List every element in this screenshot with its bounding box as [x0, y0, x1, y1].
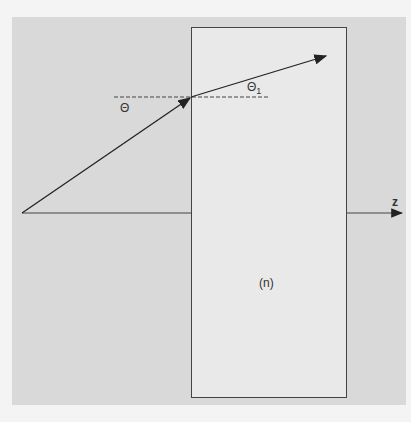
ray-diagram — [0, 0, 411, 422]
refracted-angle-label: Θ1 — [247, 80, 261, 96]
medium-index-label: (n) — [259, 276, 274, 290]
incident-angle-label: Θ — [120, 101, 129, 115]
z-axis-label: z — [392, 195, 398, 209]
incident-ray — [22, 98, 190, 213]
refracted-angle-symbol: Θ — [247, 80, 256, 94]
refracted-angle-subscript: 1 — [256, 86, 261, 96]
